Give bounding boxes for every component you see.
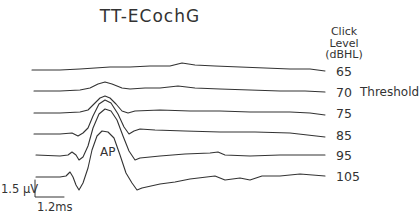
trace-75 [34,96,325,115]
scale-amplitude-label: 1.5 μV [1,182,38,196]
ap-annotation: AP [100,145,115,159]
trace-95 [36,109,325,160]
level-label-70: 70 [336,85,352,100]
trace-105 [36,131,325,190]
trace-85 [34,100,325,137]
scale-bar [35,180,64,197]
level-label-65: 65 [336,64,352,79]
threshold-label: Threshold [360,85,419,99]
level-label-105: 105 [336,169,360,184]
level-label-85: 85 [336,128,352,143]
trace-70 [34,82,325,92]
level-label-95: 95 [336,148,352,163]
level-label-75: 75 [336,106,352,121]
trace-65 [32,63,325,71]
scale-time-label: 1.2ms [37,200,72,214]
